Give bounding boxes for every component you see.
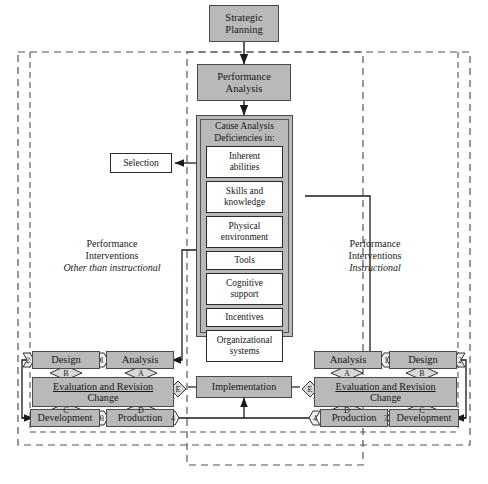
right-eval-l2: Change bbox=[370, 392, 401, 403]
cause-item-0-label: Inherent abilities bbox=[229, 151, 260, 172]
cause-item-4-label: Cognitive support bbox=[226, 278, 263, 299]
left-evaluation-label: Evaluation and Revision Change bbox=[53, 381, 153, 404]
right-evaluation-label: Evaluation and Revision Change bbox=[335, 381, 435, 404]
ld-b: B bbox=[63, 369, 68, 378]
right-connector-4-label: 4 bbox=[310, 412, 320, 424]
cause-item-cognitive-support[interactable]: Cognitive support bbox=[206, 273, 283, 305]
right-design-label: Design bbox=[408, 354, 438, 366]
ci1-l2: knowledge bbox=[224, 197, 265, 207]
ci2-l2: environment bbox=[221, 232, 268, 242]
right-diamond-E-label: E bbox=[304, 383, 316, 395]
ld-a: A bbox=[138, 369, 144, 378]
left-diamond-C-label: C bbox=[58, 404, 74, 416]
right-evaluation-box[interactable]: Evaluation and Revision Change bbox=[314, 377, 457, 407]
implementation-box[interactable]: Implementation bbox=[196, 376, 292, 398]
left-diamond-A-label: A bbox=[133, 367, 149, 379]
ld-e: E bbox=[176, 385, 181, 394]
sp-line1: Strategic bbox=[225, 12, 262, 23]
ci6-l2: systems bbox=[230, 346, 260, 356]
left-connector-3-label: 3 bbox=[97, 412, 107, 424]
right-connector-1-label: 1 bbox=[381, 354, 391, 366]
pa-line2: Analysis bbox=[226, 83, 263, 94]
sp-line2: Planning bbox=[225, 24, 262, 35]
ci4-l2: support bbox=[230, 289, 258, 299]
lp-line2: Interventions bbox=[86, 250, 139, 261]
ld-d: D bbox=[138, 406, 144, 415]
cause-item-inherent-abilities[interactable]: Inherent abilities bbox=[206, 146, 283, 178]
rc-2: 2 bbox=[458, 356, 462, 365]
cause-item-incentives[interactable]: Incentives bbox=[206, 308, 283, 327]
left-analysis-label: Analysis bbox=[122, 354, 159, 366]
performance-analysis-box[interactable]: Performance Analysis bbox=[197, 64, 291, 101]
left-evaluation-box[interactable]: Evaluation and Revision Change bbox=[32, 377, 174, 407]
left-diamond-E-label: E bbox=[172, 383, 184, 395]
cause-header-line2: Deficiencies in: bbox=[214, 132, 274, 143]
cause-analysis-header: Cause Analysis Deficiencies in: bbox=[198, 120, 291, 143]
right-diamond-B-label: B bbox=[414, 367, 430, 379]
rd-a: A bbox=[344, 369, 350, 378]
ld-c: C bbox=[63, 406, 68, 415]
right-diamond-D-label: D bbox=[339, 404, 355, 416]
cause-item-skills-knowledge[interactable]: Skills and knowledge bbox=[206, 181, 283, 213]
rp-line1: Performance bbox=[349, 238, 400, 249]
right-loop-outer bbox=[458, 360, 466, 418]
ci0-l1: Inherent bbox=[229, 151, 260, 161]
lc-2: 2 bbox=[26, 356, 30, 365]
right-analysis-label: Analysis bbox=[330, 354, 367, 366]
strategic-planning-box[interactable]: Strategic Planning bbox=[209, 5, 279, 42]
rc-4: 4 bbox=[313, 414, 317, 423]
right-diamond-A-label: A bbox=[339, 367, 355, 379]
left-diamond-B-label: B bbox=[58, 367, 74, 379]
ci4-l1: Cognitive bbox=[226, 278, 263, 288]
right-panel-label: Performance Interventions Instructional bbox=[300, 238, 450, 275]
right-eval-l1: Evaluation and Revision bbox=[335, 381, 435, 392]
left-eval-l1: Evaluation and Revision bbox=[53, 381, 153, 392]
performance-analysis-label: Performance Analysis bbox=[217, 71, 271, 95]
ci6-l1: Organizational bbox=[217, 335, 273, 345]
cause-item-tools[interactable]: Tools bbox=[206, 251, 283, 270]
pa-line1: Performance bbox=[217, 71, 271, 82]
lc-1: 1 bbox=[100, 356, 104, 365]
ci5-l1: Incentives bbox=[225, 312, 264, 323]
lc-4: 4 bbox=[171, 414, 175, 423]
right-connector-3-label: 3 bbox=[381, 412, 391, 424]
left-eval-l2: Change bbox=[87, 392, 118, 403]
lp-line1: Performance bbox=[86, 238, 137, 249]
rd-d: D bbox=[344, 406, 350, 415]
left-connector-2-label: 2 bbox=[23, 354, 33, 366]
selection-label: Selection bbox=[123, 158, 159, 169]
rd-c: C bbox=[419, 406, 424, 415]
rd-e: E bbox=[308, 385, 313, 394]
cause-header-line1: Cause Analysis bbox=[215, 120, 274, 131]
line-skills-to-right-analysis bbox=[305, 196, 370, 360]
lc-3: 3 bbox=[100, 414, 104, 423]
cause-item-2-label: Physical environment bbox=[221, 221, 268, 242]
diagram-canvas: Strategic Planning Performance Analysis … bbox=[0, 0, 488, 484]
left-loop-outer bbox=[22, 360, 30, 418]
lp-line3: Other than instructional bbox=[63, 262, 160, 273]
left-design-label: Design bbox=[51, 354, 81, 366]
ci0-l2: abilities bbox=[230, 162, 260, 172]
rc-1: 1 bbox=[384, 356, 388, 365]
right-diamond-C-label: C bbox=[414, 404, 430, 416]
implementation-label: Implementation bbox=[212, 381, 277, 392]
right-connector-2-label: 2 bbox=[455, 354, 465, 366]
cause-item-6-label: Organizational systems bbox=[217, 335, 273, 356]
selection-box[interactable]: Selection bbox=[110, 153, 172, 173]
rp-line3: Instructional bbox=[349, 262, 401, 273]
rd-b: B bbox=[419, 369, 424, 378]
left-diamond-D-label: D bbox=[133, 404, 149, 416]
cause-item-1-label: Skills and knowledge bbox=[224, 186, 265, 207]
left-connector-4-label: 4 bbox=[168, 412, 178, 424]
ci1-l1: Skills and bbox=[226, 186, 263, 196]
strategic-planning-label: Strategic Planning bbox=[225, 12, 262, 36]
ci2-l1: Physical bbox=[229, 221, 261, 231]
cause-item-organizational-systems[interactable]: Organizational systems bbox=[206, 330, 283, 362]
cause-item-physical-environment[interactable]: Physical environment bbox=[206, 216, 283, 248]
left-panel-label: Performance Interventions Other than ins… bbox=[38, 238, 186, 275]
rp-line2: Interventions bbox=[349, 250, 402, 261]
left-connector-1-label: 1 bbox=[97, 354, 107, 366]
ci3-l1: Tools bbox=[234, 255, 255, 266]
line-bottom-to-implementation bbox=[175, 398, 244, 418]
rc-3: 3 bbox=[384, 414, 388, 423]
